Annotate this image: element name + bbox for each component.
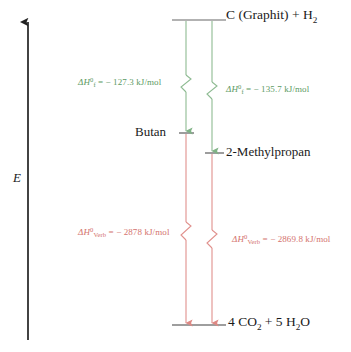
species-label-elements: C (Graphit) + H2 <box>226 7 317 25</box>
species-elements-subscript: 2 <box>313 15 318 25</box>
enthalpy-subscript: Verb <box>247 238 260 245</box>
diagram-canvas <box>0 0 351 352</box>
level-lines <box>172 20 226 325</box>
arrow-formation-methylpropane <box>207 21 217 151</box>
products-plus-text: + 5 H <box>261 314 295 329</box>
enthalpy-symbol: ΔH <box>232 234 244 244</box>
enthalpy-value: = − 127.3 kJ/mol <box>96 77 162 87</box>
energy-level-diagram: E C (Graphit) + H2 Butan 2-Methylpropan … <box>0 0 351 352</box>
energy-axis-label: E <box>13 170 21 186</box>
products-co2-text: 4 CO <box>228 314 257 329</box>
products-h2o-text: O <box>300 314 310 329</box>
species-label-methylpropane: 2-Methylpropan <box>226 144 310 160</box>
enthalpy-label-combustion-butane: ΔH0Verb = − 2878 kJ/mol <box>78 226 170 238</box>
species-elements-text: C (Graphit) + H <box>226 7 313 22</box>
enthalpy-subscript: Verb <box>93 231 106 238</box>
enthalpy-label-formation-butane: ΔH0f = − 127.3 kJ/mol <box>78 76 161 88</box>
species-label-products: 4 CO2 + 5 H2O <box>228 314 310 332</box>
enthalpy-label-formation-methylpropane: ΔH0f = − 135.7 kJ/mol <box>226 83 309 95</box>
enthalpy-symbol: ΔH <box>226 84 238 94</box>
arrow-combustion-methylpropane <box>207 154 217 323</box>
arrow-combustion-butane <box>181 134 191 323</box>
arrow-formation-butane <box>181 21 191 131</box>
enthalpy-symbol: ΔH <box>78 77 90 87</box>
enthalpy-value: = − 2878 kJ/mol <box>106 227 169 237</box>
enthalpy-value: = − 135.7 kJ/mol <box>244 84 310 94</box>
enthalpy-label-combustion-methylpropane: ΔH0Verb = − 2869.8 kJ/mol <box>232 233 330 245</box>
species-label-butane: Butan <box>135 124 166 140</box>
enthalpy-value: = − 2869.8 kJ/mol <box>260 234 330 244</box>
enthalpy-symbol: ΔH <box>78 227 90 237</box>
